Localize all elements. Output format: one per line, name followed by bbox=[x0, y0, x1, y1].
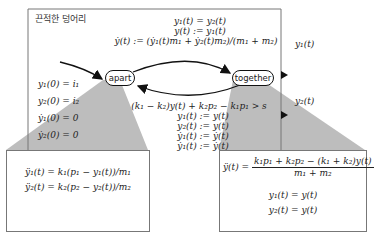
reset-top-2: ẏ(t) := (ẏ₁(t)m₁ + ẏ₂(t)m₂)/(m₁ + m₂) bbox=[112, 36, 280, 46]
transition-bottom-label: (k₁ − k₂)y(t) + k₂p₂ − k₁p₁ > s y₁(t) :=… bbox=[118, 101, 288, 151]
initial-condition: y₂(0) = i₂ bbox=[38, 93, 79, 110]
state-apart[interactable]: apart bbox=[105, 70, 135, 86]
together-lhs: ÿ(t) = bbox=[223, 162, 249, 172]
output-port-y1-icon bbox=[281, 71, 288, 79]
output-y2-label: y₂(t) bbox=[295, 96, 314, 106]
reset-bottom-3: ẏ₁(t) := ẏ(t) bbox=[118, 131, 288, 141]
apart-equation: ÿ₂(t) = k₂(p₂ − y₂(t))/m₂ bbox=[7, 180, 149, 195]
apart-equation: ÿ₁(t) = k₁(p₁ − y₁(t))/m₁ bbox=[7, 165, 149, 180]
reset-bottom-1: y₁(t) := y(t) bbox=[118, 111, 288, 121]
together-refinement-box: ÿ(t) = k₁p₁ + k₂p₂ − (k₁ + k₂)y(t) m₁ + … bbox=[219, 150, 367, 232]
fraction-denominator: m₁ + m₂ bbox=[252, 168, 374, 179]
together-equation: y₂(t) = y(t) bbox=[220, 203, 366, 218]
transition-arrow-bottom bbox=[138, 85, 240, 95]
reset-bottom-2: y₂(t) := y(t) bbox=[118, 121, 288, 131]
initial-condition: ẏ₂(0) = 0 bbox=[38, 127, 79, 144]
apart-refinement-box: ÿ₁(t) = k₁(p₁ − y₁(t))/m₁ ÿ₂(t) = k₂(p₂ … bbox=[6, 150, 150, 232]
initial-condition: y₁(0) = i₁ bbox=[38, 76, 79, 93]
actor-title: 끈적한 덩어리 bbox=[35, 12, 86, 25]
together-fraction: k₁p₁ + k₂p₂ − (k₁ + k₂)y(t) m₁ + m₂ bbox=[252, 156, 374, 179]
output-y1-label: y₁(t) bbox=[295, 39, 314, 49]
guard-bottom: (k₁ − k₂)y(t) + k₂p₂ − k₁p₁ > s bbox=[110, 101, 288, 111]
state-together[interactable]: together bbox=[232, 70, 274, 86]
fraction-numerator: k₁p₁ + k₂p₂ − (k₁ + k₂)y(t) bbox=[252, 156, 374, 168]
initial-conditions: y₁(0) = i₁ y₂(0) = i₂ ẏ₁(0) = 0 ẏ₂(0) = … bbox=[38, 76, 79, 144]
guard-top: y₁(t) = y₂(t) bbox=[120, 16, 280, 26]
transition-top-label: y₁(t) = y₂(t) y(t) := y₁(t) ẏ(t) := (ẏ₁(… bbox=[120, 16, 280, 46]
transition-arrow-top bbox=[133, 61, 230, 73]
reset-top-1: y(t) := y₁(t) bbox=[120, 26, 280, 36]
together-equation: y₁(t) = y(t) bbox=[220, 188, 366, 203]
initial-condition: ẏ₁(0) = 0 bbox=[38, 110, 79, 127]
